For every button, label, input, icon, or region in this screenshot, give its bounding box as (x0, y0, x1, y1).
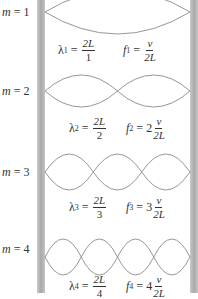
frequency-formula-4: f4 = 4 v2L (126, 274, 166, 299)
frequency-formula-2: f2 = 2 v2L (126, 116, 166, 141)
wave-mode-4 (45, 239, 190, 275)
mode-label-3: m = 3 (2, 165, 29, 180)
frequency-formula-1: f1 = v2L (123, 38, 157, 63)
wave-mode-2 (45, 75, 190, 107)
wave-mode-3 (45, 154, 190, 190)
wavelength-formula-4: λ4 = 2L4 (69, 274, 107, 299)
wave-mode-1 (45, 0, 190, 34)
mode-label-1: m = 1 (2, 5, 29, 20)
wavelength-formula-3: λ3 = 2L3 (69, 195, 107, 220)
mode-label-4: m = 4 (2, 242, 29, 257)
wavelength-formula-2: λ2 = 2L2 (69, 116, 107, 141)
wavelength-formula-1: λ1 = 2L1 (58, 38, 96, 63)
mode-label-2: m = 2 (2, 84, 29, 99)
frequency-formula-3: f3 = 3 v2L (126, 195, 166, 220)
